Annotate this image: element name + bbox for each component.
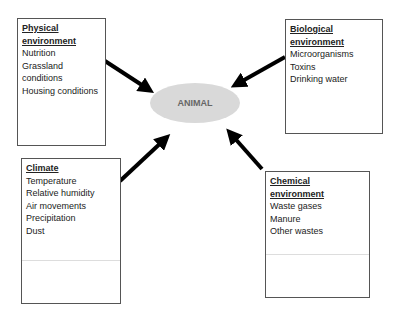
climate-item: Temperature [26,175,116,188]
climate-title: Climate [26,162,116,175]
arrow-biological [237,57,285,84]
physical-item: Nutrition [22,47,101,60]
arrow-climate [120,139,165,181]
physical-item: Housing conditions [22,85,101,98]
biological-title-1: Biological [290,23,378,36]
physical-environment-box: Physical environment Nutrition Grassland… [17,18,106,146]
biological-item: Toxins [290,61,378,74]
arrow-chemical [231,134,262,169]
arrow-physical [105,61,148,89]
animal-label: ANIMAL [178,98,213,108]
chemical-title-1: Chemical [270,175,365,188]
physical-item: conditions [22,72,101,85]
climate-item: Precipitation [26,212,116,225]
chemical-item: Waste gases [270,200,365,213]
biological-title-2: environment [290,36,378,49]
divider [22,260,120,261]
climate-item: Air movements [26,200,116,213]
chemical-item: Manure [270,213,365,226]
chemical-title-2: environment [270,188,365,201]
divider [266,254,369,255]
climate-item: Dust [26,225,116,238]
animal-node: ANIMAL [150,83,240,123]
biological-item: Microorganisms [290,48,378,61]
physical-title-2: environment [22,35,101,48]
physical-title-1: Physical [22,22,101,35]
climate-item: Relative humidity [26,187,116,200]
chemical-environment-box: Chemical environment Waste gases Manure … [265,171,370,298]
biological-environment-box: Biological environment Microorganisms To… [285,19,383,134]
chemical-item: Other wastes [270,225,365,238]
biological-item: Drinking water [290,73,378,86]
climate-box: Climate Temperature Relative humidity Ai… [21,158,121,304]
physical-item: Grassland [22,60,101,73]
